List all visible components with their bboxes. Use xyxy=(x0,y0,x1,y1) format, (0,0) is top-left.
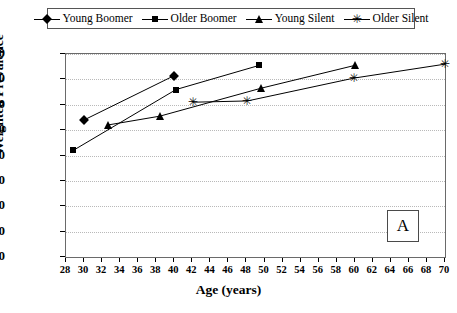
x-axis-title: Age (years) xyxy=(0,282,457,298)
data-point xyxy=(253,59,265,71)
data-point xyxy=(154,110,166,122)
y-tick-label: 0 xyxy=(0,248,5,264)
legend-entry[interactable]: Young Boomer xyxy=(34,13,133,25)
y-tick-label: 80 xyxy=(0,45,5,61)
data-point xyxy=(168,70,180,82)
diamond-marker-icon xyxy=(42,14,52,24)
legend-key-star: ✳ xyxy=(344,13,370,25)
star-marker-icon: ✳ xyxy=(348,73,359,84)
series-line xyxy=(108,65,355,125)
data-point xyxy=(67,144,79,156)
y-tick-label: 10 xyxy=(0,223,5,239)
y-tick-label: 20 xyxy=(0,197,5,213)
triangle-marker-icon xyxy=(257,84,265,92)
x-tick-label: 70 xyxy=(432,264,456,275)
diamond-marker-icon xyxy=(79,115,89,125)
square-marker-icon xyxy=(70,147,76,153)
triangle-marker-icon xyxy=(104,121,112,129)
y-tick-label: 50 xyxy=(0,121,5,137)
square-marker-icon xyxy=(256,62,262,68)
data-point xyxy=(102,119,114,131)
star-marker-icon: ✳ xyxy=(188,97,199,108)
panel-label: A xyxy=(387,210,419,242)
legend-label: Older Silent xyxy=(373,13,429,25)
data-point xyxy=(349,59,361,71)
y-tick-label: 40 xyxy=(0,147,5,163)
legend-entry[interactable]: Young Silent xyxy=(246,13,335,25)
legend-label: Young Silent xyxy=(275,13,335,25)
series-line xyxy=(73,65,259,150)
legend-key-diamond xyxy=(34,13,60,25)
data-point: ✳ xyxy=(348,72,360,84)
triangle-marker-icon xyxy=(351,61,359,69)
legend-entry[interactable]: ✳Older Silent xyxy=(344,13,429,25)
data-point: ✳ xyxy=(241,95,253,107)
chart-figure: Young BoomerOlder BoomerYoung Silent✳Old… xyxy=(0,0,457,313)
square-marker-icon xyxy=(173,87,179,93)
chart-legend: Young BoomerOlder BoomerYoung Silent✳Old… xyxy=(47,8,415,29)
star-marker-icon: ✳ xyxy=(351,13,362,24)
y-tick-label: 60 xyxy=(0,96,5,112)
triangle-marker-icon xyxy=(255,15,263,23)
data-point xyxy=(78,114,90,126)
legend-label: Young Boomer xyxy=(63,13,133,25)
legend-key-square xyxy=(142,13,168,25)
legend-key-triangle xyxy=(246,13,272,25)
data-point: ✳ xyxy=(439,58,451,70)
y-tick-label: 70 xyxy=(0,70,5,86)
legend-label: Older Boomer xyxy=(171,13,237,25)
data-point xyxy=(170,84,182,96)
legend-entry[interactable]: Older Boomer xyxy=(142,13,237,25)
star-marker-icon: ✳ xyxy=(242,95,253,106)
square-marker-icon xyxy=(152,16,158,22)
diamond-marker-icon xyxy=(169,71,179,81)
y-tick-label: 30 xyxy=(0,172,5,188)
data-point xyxy=(255,82,267,94)
star-marker-icon: ✳ xyxy=(440,59,451,70)
triangle-marker-icon xyxy=(156,112,164,120)
data-point: ✳ xyxy=(187,96,199,108)
